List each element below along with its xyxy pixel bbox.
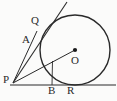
geometry-canvas	[0, 0, 117, 101]
center-point-dot	[73, 48, 77, 52]
radius-line-segment	[13, 50, 75, 83]
geometry-figure: Q A O P B R	[0, 0, 117, 101]
perpendicular-segment	[52, 61, 53, 85]
point-label-o: O	[71, 55, 79, 66]
point-label-a: A	[22, 34, 30, 45]
point-label-p: P	[3, 74, 9, 85]
point-label-q: Q	[31, 15, 39, 26]
point-label-b: B	[48, 85, 55, 96]
point-label-r: R	[67, 85, 74, 96]
